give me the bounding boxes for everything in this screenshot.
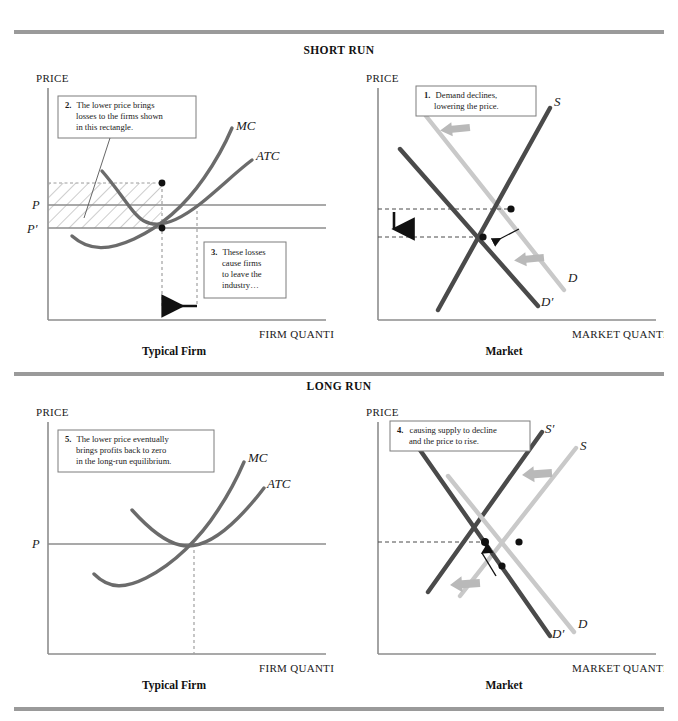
- mc-curve-label: MC: [235, 118, 256, 133]
- top-rule: [14, 30, 664, 34]
- callout-5: 5. The lower price eventually brings pro…: [58, 430, 214, 472]
- svg-text:3. These losses: 3. These losses: [211, 247, 266, 257]
- point-mc-at-new-price: [159, 225, 166, 232]
- supply-curve-s-prime-label: S′: [545, 421, 555, 436]
- supply-shift-arrow-upper: [521, 465, 552, 483]
- panel-short-run-market: PRICE MARKET QUANTITY D D′ S: [344, 66, 664, 346]
- callout-2-number: 2.: [65, 100, 71, 110]
- svg-text:1. Demand declines,: 1. Demand declines,: [424, 90, 497, 100]
- callout-3-line-4: industry…: [222, 280, 259, 290]
- callout-5-line-3: in the long-run equilibrium.: [76, 456, 171, 466]
- bottom-rule: [14, 707, 664, 711]
- atc-curve-label: ATC: [266, 476, 291, 491]
- x-axis-title-market-quantity: MARKET QUANTITY: [572, 328, 664, 340]
- callout-4-number: 4.: [397, 425, 403, 435]
- callout-4: 4. causing supply to decline and the pri…: [390, 421, 530, 451]
- y-axis-title-price: PRICE: [366, 406, 399, 418]
- point-original-equilibrium: [507, 205, 514, 212]
- atc-curve-label: ATC: [255, 148, 280, 163]
- panel-long-run-market: PRICE MARKET QUANTITY S S′ D D′: [344, 400, 664, 680]
- demand-curve-d-label: D: [577, 616, 588, 631]
- caption-short-run-firm: Typical Firm: [14, 345, 334, 357]
- x-axis-title-firm-quantity: FIRM QUANTITY: [259, 328, 334, 340]
- callout-3: 3. These losses cause firms to leave the…: [204, 242, 286, 298]
- panel-short-run-firm: PRICE FIRM QUANTITY P P′ ATC MC: [14, 66, 334, 346]
- caption-long-run-firm: Typical Firm: [14, 679, 334, 691]
- demand-shift-arrow-lower: [513, 250, 544, 267]
- callout-2-line-2: losses to the firms shown: [76, 111, 164, 121]
- callout-1: 1. Demand declines, lowering the price.: [416, 86, 536, 116]
- mc-curve-label: MC: [247, 450, 268, 465]
- section-title-short-run: SHORT RUN: [0, 44, 678, 56]
- callout-4-line-2: and the price to rise.: [409, 436, 479, 446]
- callout-5-line-1: The lower price eventually: [76, 434, 169, 444]
- price-label-p: P: [31, 198, 40, 212]
- price-label-p-prime: P′: [26, 222, 38, 236]
- supply-curve-s-label: S: [554, 94, 561, 109]
- point-new-equilibrium: [479, 233, 486, 240]
- callout-1-line-2: lowering the price.: [434, 101, 499, 111]
- supply-curve-s-label: S: [580, 438, 587, 453]
- demand-shift-arrow-upper: [439, 120, 470, 137]
- caption-short-run-market: Market: [344, 345, 664, 357]
- section-title-long-run: LONG RUN: [0, 380, 678, 392]
- point-short-run-equilibrium: [498, 562, 505, 569]
- svg-text:2. The lower price b: 2. The lower price brings: [65, 100, 155, 110]
- point-original-equilibrium: [515, 538, 522, 545]
- y-axis-title-price: PRICE: [366, 72, 399, 84]
- callout-5-line-2: brings profits back to zero: [76, 445, 166, 455]
- economics-figure: SHORT RUN LONG RUN PRICE FIRM QUANTITY: [0, 0, 678, 721]
- x-axis-title-firm-quantity: FIRM QUANTITY: [259, 662, 334, 674]
- y-axis-title-price: PRICE: [36, 72, 69, 84]
- callout-5-number: 5.: [65, 434, 71, 444]
- demand-curve-d-prime-label: D′: [540, 294, 553, 309]
- point-long-run-equilibrium: [481, 538, 489, 546]
- price-label-p: P: [31, 537, 40, 551]
- callout-3-line-1: These losses: [222, 247, 266, 257]
- callout-4-line-1: causing supply to decline: [410, 425, 497, 435]
- callout-1-number: 1.: [424, 90, 430, 100]
- mc-curve: [94, 462, 244, 586]
- x-axis-title-market-quantity: MARKET QUANTITY: [572, 662, 664, 674]
- equilibrium-shift-arrow: [494, 229, 519, 242]
- y-axis-title-price: PRICE: [36, 406, 69, 418]
- callout-3-line-3: to leave the: [222, 269, 262, 279]
- caption-long-run-market: Market: [344, 679, 664, 691]
- callout-1-line-1: Demand declines,: [436, 90, 498, 100]
- panel-long-run-firm: PRICE FIRM QUANTITY P ATC MC 5. The lowe…: [14, 400, 334, 680]
- demand-curve-d-prime-label: D′: [551, 626, 564, 641]
- callout-2-line-3: in this rectangle.: [76, 122, 133, 132]
- svg-text:4. causing supply to: 4. causing supply to decline: [397, 425, 497, 435]
- middle-rule: [14, 372, 664, 376]
- svg-text:5. The lower price e: 5. The lower price eventually: [65, 434, 169, 444]
- callout-2-line-1: The lower price brings: [76, 100, 155, 110]
- demand-curve-d: [448, 476, 574, 632]
- demand-curve-d-label: D: [567, 270, 578, 285]
- callout-3-line-2: cause firms: [222, 258, 262, 268]
- point-atc-at-new-quantity: [159, 180, 166, 187]
- callout-3-number: 3.: [211, 247, 217, 257]
